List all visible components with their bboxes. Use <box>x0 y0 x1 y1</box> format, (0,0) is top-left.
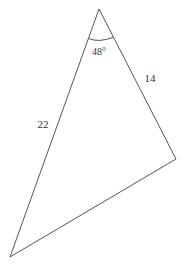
side-left-label: 22 <box>38 118 49 130</box>
side-bottom <box>10 159 176 257</box>
angle-label: 48° <box>92 46 106 57</box>
triangle-diagram: 48° 14 22 <box>0 0 188 271</box>
side-left <box>10 9 99 257</box>
side-right <box>99 9 176 159</box>
side-right-label: 14 <box>145 72 157 84</box>
angle-arc <box>89 37 115 40</box>
